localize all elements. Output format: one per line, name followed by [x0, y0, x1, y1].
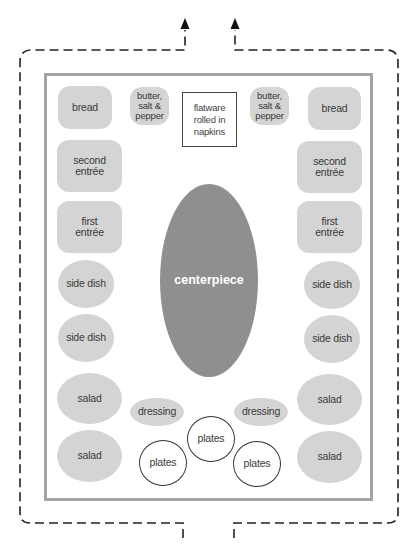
label: butter, salt & pepper	[135, 91, 163, 121]
label: salad	[77, 450, 101, 462]
bread-right: bread	[308, 87, 361, 130]
label: first entrée	[75, 216, 104, 239]
side-dish-left-2: side dish	[58, 314, 114, 362]
plates-left: plates	[139, 440, 187, 486]
label: second entrée	[73, 155, 106, 178]
label: plates	[150, 457, 177, 469]
buffet-diagram: bread butter, salt & pepper flatware rol…	[0, 0, 419, 559]
label: bread	[322, 103, 348, 115]
plates-right: plates	[233, 441, 281, 487]
second-entree-right: second entrée	[297, 141, 362, 193]
salad-left-1: salad	[57, 373, 122, 424]
first-entree-left: first entrée	[57, 201, 122, 253]
label: salad	[77, 393, 101, 405]
label: salad	[317, 451, 341, 463]
plates-center: plates	[187, 416, 235, 462]
label: flatware rolled in napkins	[194, 102, 226, 138]
side-dish-right-1: side dish	[304, 261, 360, 309]
centerpiece: centerpiece	[160, 184, 258, 377]
label: second entrée	[313, 156, 346, 179]
label: centerpiece	[174, 275, 243, 287]
dressing-right: dressing	[234, 398, 288, 426]
condiments-right: butter, salt & pepper	[250, 87, 289, 125]
dressing-left: dressing	[130, 398, 184, 426]
salad-right-1: salad	[297, 374, 362, 425]
label: bread	[72, 102, 98, 114]
side-dish-right-2: side dish	[304, 315, 360, 363]
label: butter, salt & pepper	[255, 91, 283, 121]
label: salad	[317, 394, 341, 406]
side-dish-left-1: side dish	[58, 260, 114, 308]
label: plates	[244, 458, 271, 470]
label: dressing	[242, 406, 280, 418]
bread-left: bread	[58, 86, 112, 129]
salad-right-2: salad	[297, 431, 362, 483]
label: side dish	[312, 333, 352, 345]
flatware-napkins: flatware rolled in napkins	[182, 92, 237, 147]
label: dressing	[138, 406, 176, 418]
label: side dish	[312, 279, 352, 291]
second-entree-left: second entrée	[57, 140, 122, 192]
salad-left-2: salad	[57, 430, 122, 482]
exit-arrow-right-icon	[231, 18, 240, 29]
label: first entrée	[315, 216, 344, 239]
label: side dish	[66, 278, 106, 290]
label: plates	[198, 433, 225, 445]
condiments-left: butter, salt & pepper	[130, 87, 169, 125]
label: side dish	[66, 332, 106, 344]
first-entree-right: first entrée	[297, 201, 362, 253]
exit-arrow-left-icon	[181, 18, 190, 29]
